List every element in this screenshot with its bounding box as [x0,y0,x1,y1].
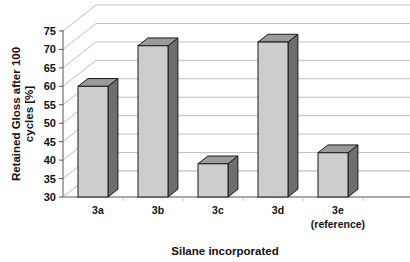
bar-front-face [198,164,228,197]
bar-group [198,156,238,197]
x-tick-sublabel: (reference) [311,218,365,230]
y-tick-label: 40 [44,154,56,166]
x-tick-label: 3c [212,204,224,216]
y-axis-title-line: Retained Gloss after 100 [10,47,22,181]
y-tick-label: 70 [44,43,56,55]
bar-side-face [288,34,298,197]
x-tick-labels-group: 3a3b3c3d3e(reference) [92,197,365,230]
bar-side-face [168,38,178,197]
bar-front-face [258,42,288,197]
y-tick-label: 50 [44,117,56,129]
x-tick-label: 3e [332,204,344,216]
y-axis-title-line: cycles [%] [23,86,35,142]
chart-canvas: 303540455055606570753a3b3c3d3e(reference… [0,0,410,262]
bar-front-face [78,86,108,197]
y-tick-label: 65 [44,62,56,74]
y-tick-label: 30 [44,191,56,203]
bar-front-face [318,153,348,197]
x-tick-label: 3d [272,204,284,216]
y-axis-title: Retained Gloss after 100cycles [%] [10,47,35,181]
y-tick-label: 35 [44,173,56,185]
y-tick-label: 55 [44,99,56,111]
x-axis-title: Silane incorporated [171,245,278,257]
bar-chart-figure: 303540455055606570753a3b3c3d3e(reference… [0,0,410,262]
x-tick-label: 3b [152,204,164,216]
bar-front-face [138,46,168,197]
bar-group [318,145,358,197]
bar-group [138,38,178,197]
x-tick-label: 3a [92,204,104,216]
bar-side-face [348,145,358,197]
bar-group [258,34,298,197]
bar-side-face [108,79,118,197]
bar-group [78,79,118,197]
y-tick-label: 60 [44,80,56,92]
y-tick-label: 45 [44,136,56,148]
y-tick-label: 75 [44,25,56,37]
